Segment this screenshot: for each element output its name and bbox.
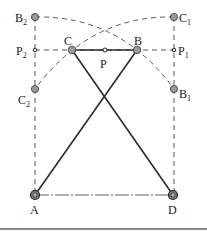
arc-B-locus <box>35 17 174 89</box>
point-P1 <box>172 48 176 52</box>
linkage-diagram: B2 C1 P2 P1 C2 B1 C B P A D <box>0 0 207 235</box>
label-A: A <box>30 203 39 217</box>
label-P2: P2 <box>16 44 27 60</box>
label-B: B <box>134 34 142 48</box>
pivot-D-inner <box>171 193 175 197</box>
label-B1: B1 <box>179 87 191 103</box>
label-P1: P1 <box>178 44 189 60</box>
label-P: P <box>100 57 107 71</box>
label-C: C <box>64 34 72 48</box>
label-C2: C2 <box>18 93 30 109</box>
joint-B1 <box>170 85 177 92</box>
joint-C1 <box>170 13 177 20</box>
diagram-canvas: B2 C1 P2 P1 C2 B1 C B P A D <box>0 0 207 235</box>
point-P <box>103 48 107 52</box>
label-B2: B2 <box>15 11 27 27</box>
joint-C2 <box>31 85 38 92</box>
joint-B2 <box>31 13 38 20</box>
arc-C-locus <box>35 17 174 89</box>
pivot-A-inner <box>33 193 37 197</box>
bottom-rule <box>0 228 207 230</box>
label-C1: C1 <box>179 11 191 27</box>
point-P2 <box>33 48 37 52</box>
label-D: D <box>168 203 177 217</box>
